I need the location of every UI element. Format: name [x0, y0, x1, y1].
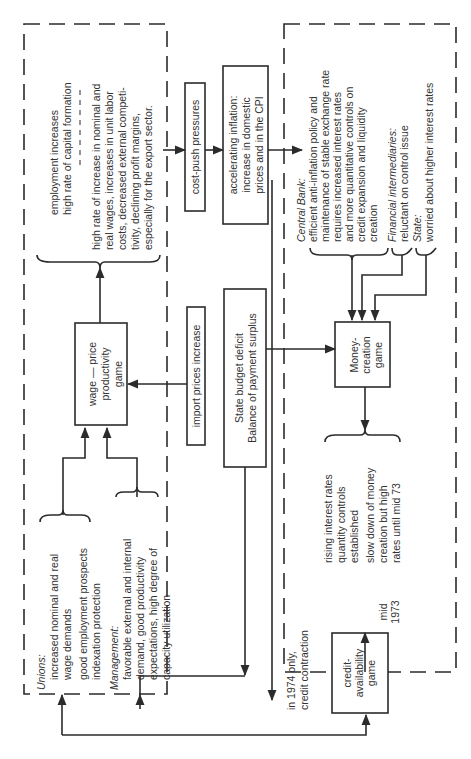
money-outcome-line: established: [348, 510, 360, 563]
money-game-line: Money-: [348, 337, 360, 373]
unions-line: wage demands: [61, 609, 73, 681]
mid-1973-label: mid 1973: [377, 600, 401, 624]
outcome-line: tivity, declining profit margins,: [129, 113, 141, 250]
cost-push-label: cost-push pressures: [189, 100, 201, 195]
unions-line: good employment prospects: [77, 548, 89, 680]
credit-game-line: credit-: [341, 658, 353, 688]
intermediaries-heading: Financial intermediaries:: [386, 128, 398, 242]
outcome-line: costs, decreased external competi-: [116, 87, 128, 250]
money-outcome-line: creation but high: [377, 485, 389, 563]
management-line: expectations, high degree of: [147, 548, 159, 680]
central-bank-line: maintenance of stable exchange rate: [319, 70, 331, 242]
money-game-line: creation: [360, 336, 372, 374]
bottom-feedback-line: [62, 715, 366, 735]
unions-brace: [40, 510, 90, 522]
outcome-line: high rate of increase in nominal and: [90, 83, 102, 250]
inflation-label: accelerating inflation: increase in dome…: [227, 96, 265, 195]
wage-game-line: game: [112, 361, 124, 387]
wage-game-line: productivity: [99, 347, 111, 401]
management-line: favorable external and internal: [121, 539, 133, 680]
money-outcome-line: rising interest rates: [322, 474, 334, 563]
diagram-canvas: Unions: increased nominal and real wage …: [0, 0, 471, 759]
wage-game-line: wage — price: [86, 342, 98, 407]
central-bank-line: creation: [367, 204, 379, 242]
credit-game-line: availability: [353, 648, 365, 697]
state-heading: State:: [411, 214, 423, 242]
unions-block: Unions: increased nominal and real wage …: [35, 548, 102, 690]
credit-contraction-label: in 1974 only, credit contraction: [285, 630, 310, 710]
money-outcome-line: rates until mid 73: [390, 483, 402, 563]
state-budget-box: [224, 289, 266, 467]
central-bank-line: efficient anti-inflation policy and: [307, 96, 319, 242]
intermediaries-line: reluctant on control issue: [398, 125, 410, 242]
mid-label-line: mid: [377, 603, 389, 620]
state-brace: [416, 248, 436, 255]
management-line: demand, good productivity: [134, 556, 146, 680]
money-outcomes-block: rising interest rates quantity controls …: [322, 467, 402, 563]
money-outcome-line: slow down of money: [364, 467, 376, 563]
management-block: Management: favorable external and inter…: [108, 539, 172, 690]
contraction-line: in 1974 only,: [285, 651, 297, 710]
central-bank-line: credit expansion and liquidity: [355, 106, 367, 242]
management-heading: Management:: [108, 626, 120, 690]
unions-arrow: [63, 428, 85, 515]
outcomes-bottom-block: high rate of increase in nominal and rea…: [90, 83, 154, 250]
money-game-line: game: [372, 342, 384, 368]
central-bank-heading: Central Bank:: [295, 178, 307, 242]
cost-push-text: cost-push pressures: [189, 100, 201, 195]
state-block: State: worried about higher interest rat…: [411, 83, 435, 243]
intermediaries-brace: [392, 248, 412, 255]
management-arrow: [107, 428, 137, 497]
unions-line: increased nominal and real: [48, 554, 60, 680]
state-budget-line: Balance of payment surplus: [246, 313, 258, 443]
central-bank-block: Central Bank: efficient anti-inflation p…: [295, 70, 379, 242]
central-bank-line: requires increased interest rates: [331, 92, 343, 242]
state-budget-line: State budget deficit: [233, 333, 245, 423]
mid-label-line: 1973: [389, 600, 401, 624]
intermediaries-block: Financial intermediaries: reluctant on c…: [386, 125, 410, 242]
inflation-line: prices and in the CPI: [253, 96, 265, 193]
management-line: capacity utilization: [160, 595, 172, 680]
inflation-line: accelerating inflation:: [227, 96, 239, 195]
state-arrow: [375, 255, 426, 320]
central-bank-brace: [310, 248, 388, 260]
import-prices-text: import prices increase: [190, 324, 202, 427]
state-line: worried about higher interest rates: [423, 83, 435, 243]
money-outcomes-brace: [325, 430, 400, 442]
unions-line: indexation protection: [90, 583, 102, 680]
outcome-line: employment increases: [48, 110, 60, 215]
outcome-line: high rate of capital formation: [61, 82, 73, 215]
contraction-line: credit contraction: [298, 630, 310, 710]
inflation-line: increase in domestic: [240, 97, 252, 193]
money-outcome-line: quantity controls: [335, 487, 347, 563]
central-bank-line: and more quantitative controls on: [343, 87, 355, 242]
outcomes-top-block: employment increases high rate of capita…: [48, 82, 73, 215]
outcome-line: especially for the export sector.: [142, 105, 154, 250]
intermediaries-arrow: [362, 255, 402, 320]
outcomes-brace: [37, 255, 160, 268]
outcome-line: real wages, increases in unit labor: [103, 91, 115, 250]
import-prices-label: import prices increase: [190, 324, 202, 427]
unions-heading: Unions:: [35, 654, 47, 690]
credit-game-line: game: [365, 660, 377, 686]
